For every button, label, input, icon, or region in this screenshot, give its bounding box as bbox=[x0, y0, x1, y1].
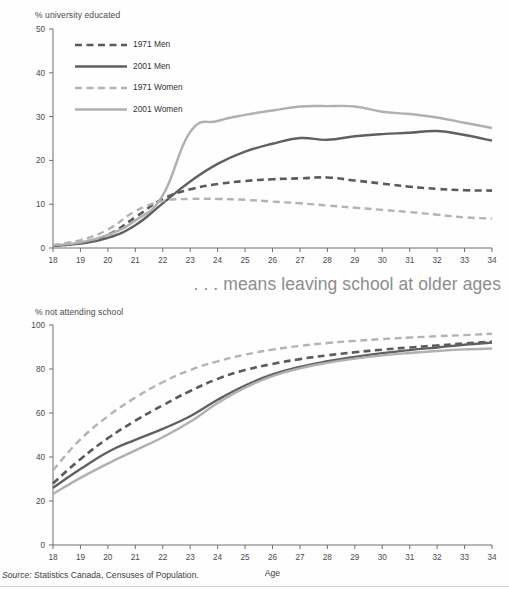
x-tick-label: 26 bbox=[268, 256, 278, 265]
x-tick-label: 20 bbox=[103, 553, 113, 562]
series-line-2001-men bbox=[53, 131, 492, 246]
x-tick-label: 32 bbox=[433, 553, 443, 562]
x-tick-label: 34 bbox=[487, 256, 497, 265]
x-tick-label: 25 bbox=[241, 553, 251, 562]
source-label: Source: bbox=[2, 570, 32, 580]
chart-not-attending-school: 0204060801001819202122232425262728293031… bbox=[0, 300, 509, 550]
y-tick-label: 20 bbox=[36, 156, 46, 165]
x-tick-label: 24 bbox=[213, 553, 223, 562]
y-tick-label: 50 bbox=[36, 25, 46, 34]
x-tick-label: 19 bbox=[76, 256, 86, 265]
series-line-2001-women bbox=[53, 106, 492, 246]
top-chart-canvas: 0102030405018192021222324252627282930313… bbox=[0, 0, 509, 272]
y-tick-label: 60 bbox=[36, 409, 46, 418]
series-line-1971-men bbox=[53, 177, 492, 245]
y-tick-label: 30 bbox=[36, 113, 46, 122]
y-tick-label: 80 bbox=[36, 365, 46, 374]
x-tick-label: 32 bbox=[433, 256, 443, 265]
series-line-1971-men bbox=[53, 342, 492, 484]
x-tick-label: 22 bbox=[158, 256, 168, 265]
x-tick-label: 33 bbox=[460, 553, 470, 562]
x-axis-label: Age bbox=[265, 568, 281, 578]
x-tick-label: 21 bbox=[131, 256, 141, 265]
x-tick-label: 29 bbox=[350, 256, 360, 265]
x-tick-label: 31 bbox=[405, 256, 415, 265]
legend-label-2001-men: 2001 Men bbox=[133, 61, 171, 71]
x-tick-label: 24 bbox=[213, 256, 223, 265]
x-tick-label: 19 bbox=[76, 553, 86, 562]
y-tick-label: 40 bbox=[36, 453, 46, 462]
x-tick-label: 20 bbox=[103, 256, 113, 265]
x-tick-label: 23 bbox=[186, 256, 196, 265]
legend-label-2001-women: 2001 Women bbox=[133, 104, 183, 114]
series-line-2001-women bbox=[53, 349, 492, 494]
x-tick-label: 23 bbox=[186, 553, 196, 562]
source-note: Source: Statistics Canada, Censuses of P… bbox=[2, 570, 199, 580]
y-tick-label: 100 bbox=[31, 321, 45, 330]
legend-label-1971-women: 1971 Women bbox=[133, 82, 183, 92]
x-tick-label: 29 bbox=[350, 553, 360, 562]
x-tick-label: 34 bbox=[487, 553, 497, 562]
x-tick-label: 31 bbox=[405, 553, 415, 562]
x-tick-label: 27 bbox=[295, 553, 305, 562]
x-tick-label: 26 bbox=[268, 553, 278, 562]
series-line-1971-women bbox=[53, 199, 492, 245]
x-tick-label: 30 bbox=[378, 256, 388, 265]
chart-university-educated: 0102030405018192021222324252627282930313… bbox=[0, 0, 509, 272]
source-text: Statistics Canada, Censuses of Populatio… bbox=[32, 570, 199, 580]
series-line-1971-women bbox=[53, 334, 492, 470]
y-tick-label: 40 bbox=[36, 69, 46, 78]
middle-caption: . . . means leaving school at older ages bbox=[193, 274, 501, 295]
x-tick-label: 22 bbox=[158, 553, 168, 562]
legend-label-1971-men: 1971 Men bbox=[133, 39, 171, 49]
x-tick-label: 33 bbox=[460, 256, 470, 265]
y-tick-label: 0 bbox=[40, 244, 45, 253]
page-bottom-rule bbox=[0, 586, 509, 587]
x-tick-label: 27 bbox=[295, 256, 305, 265]
y-tick-label: 0 bbox=[40, 541, 45, 550]
x-tick-label: 18 bbox=[48, 256, 58, 265]
bottom-chart-canvas: 0204060801001819202122232425262728293031… bbox=[0, 300, 509, 550]
x-tick-label: 28 bbox=[323, 256, 333, 265]
x-tick-label: 28 bbox=[323, 553, 333, 562]
y-tick-label: 10 bbox=[36, 200, 46, 209]
y-tick-label: 20 bbox=[36, 497, 46, 506]
x-tick-label: 25 bbox=[241, 256, 251, 265]
x-tick-label: 21 bbox=[131, 553, 141, 562]
figure-page: % university educated 010203040501819202… bbox=[0, 0, 509, 590]
x-tick-label: 18 bbox=[48, 553, 58, 562]
x-tick-label: 30 bbox=[378, 553, 388, 562]
